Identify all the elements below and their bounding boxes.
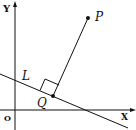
origin-label: O [4, 113, 11, 123]
diagram: Y X O P Q L [0, 0, 136, 130]
y-axis-label: Y [2, 3, 11, 14]
line-l [0, 74, 128, 128]
line-l-label: L [21, 69, 30, 83]
y-axis-arrow [13, 1, 17, 7]
x-axis-arrow [130, 108, 136, 112]
point-q-label: Q [37, 96, 47, 110]
x-axis-label: X [121, 112, 128, 122]
point-q [51, 94, 55, 98]
point-p-label: P [94, 10, 104, 24]
point-p [86, 16, 90, 20]
